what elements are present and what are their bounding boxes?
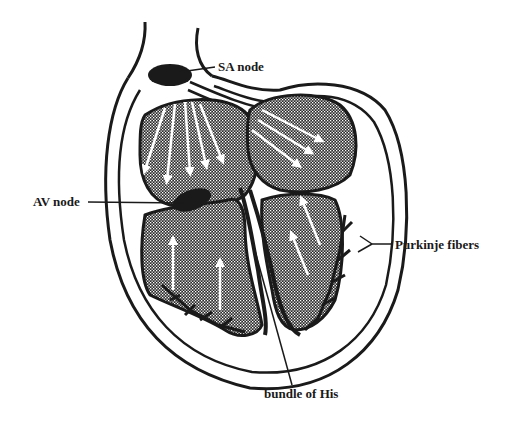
bundle-of-his-label: bundle of His: [264, 387, 338, 400]
purkinje-fibers-label: Purkinje fibers: [395, 238, 479, 251]
av-node-label: AV node: [33, 195, 80, 208]
sa-node-label: SA node: [218, 60, 264, 73]
sa-node: [148, 64, 192, 86]
